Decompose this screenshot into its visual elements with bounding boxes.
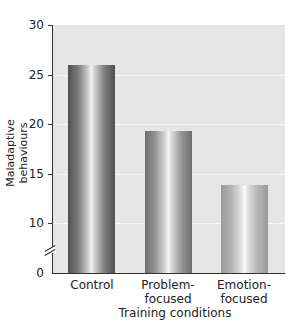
xtick-label-line: focused: [204, 292, 284, 306]
bar-emotion-focused: [221, 185, 268, 273]
ytick-25: [48, 75, 53, 76]
x-axis-title: Training conditions: [110, 306, 240, 320]
xtick-label-line: Problem-: [128, 278, 208, 292]
ytick-30: [48, 25, 53, 26]
xtick-label-line: focused: [128, 292, 208, 306]
xtick-label-line: Control: [52, 278, 132, 292]
x-axis: [52, 273, 285, 274]
ytick-10: [48, 223, 53, 224]
bar-problem-focused: [145, 131, 192, 273]
ytick-label: 0: [20, 267, 44, 279]
ytick-20: [48, 124, 53, 125]
y-axis-title: Maladaptive behaviours: [4, 88, 30, 218]
ytick-label: 25: [20, 69, 44, 81]
xtick-label-line: Emotion-: [204, 278, 284, 292]
xtick-label-emotion-focused: Emotion- focused: [204, 278, 284, 306]
ytick-label: 10: [20, 217, 44, 229]
ytick-label: 30: [20, 19, 44, 31]
y-axis: [52, 25, 53, 274]
xtick-label-problem-focused: Problem- focused: [128, 278, 208, 306]
xtick-label-control: Control: [52, 278, 132, 292]
ytick-15: [48, 174, 53, 175]
bar-control: [68, 65, 115, 273]
